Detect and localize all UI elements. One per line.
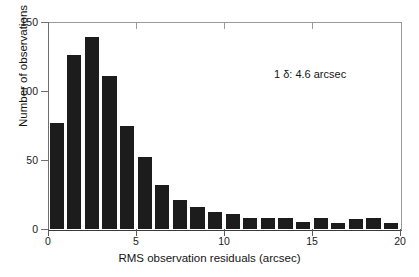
sigma-annotation: 1 δ: 4.6 arcsec	[274, 68, 346, 80]
histogram-bars	[48, 22, 400, 229]
histogram-bar	[278, 218, 292, 229]
histogram-bar	[366, 218, 380, 229]
bar-slot	[118, 22, 136, 229]
bar-slot	[189, 22, 207, 229]
histogram-bar	[102, 76, 116, 229]
histogram-bar	[138, 157, 152, 229]
bar-slot	[312, 22, 330, 229]
bar-slot	[48, 22, 66, 229]
x-tick-label-5: 5	[124, 236, 148, 247]
bar-slot	[330, 22, 348, 229]
bar-slot	[101, 22, 119, 229]
bar-slot	[136, 22, 154, 229]
bar-slot	[66, 22, 84, 229]
histogram-bar	[155, 185, 169, 229]
histogram-bar	[50, 123, 64, 229]
histogram-bar	[314, 218, 328, 229]
histogram-bar	[384, 223, 398, 229]
bar-slot	[154, 22, 172, 229]
x-tick-label-20: 20	[388, 236, 412, 247]
y-axis-title: Number of observations	[17, 0, 29, 151]
bar-slot	[171, 22, 189, 229]
y-axis-title-wrapper: Number of observations	[0, 0, 1, 1]
y-tick-label-0: 0	[12, 224, 38, 235]
histogram-bar	[261, 218, 275, 229]
x-tick-label-10: 10	[212, 236, 236, 247]
y-tick-label-50: 50	[12, 155, 38, 166]
bar-slot	[365, 22, 383, 229]
bar-slot	[347, 22, 365, 229]
histogram-bar	[85, 37, 99, 229]
bar-slot	[224, 22, 242, 229]
histogram-bar	[243, 218, 257, 229]
histogram-bar	[331, 223, 345, 229]
histogram-bar	[67, 55, 81, 229]
bar-slot	[242, 22, 260, 229]
histogram-bar	[349, 219, 363, 229]
histogram-bar	[296, 222, 310, 229]
bar-slot	[83, 22, 101, 229]
figure-canvas: 150 100 50 0 0 5 10 15 20 1 δ: 4.6 arcse…	[0, 0, 419, 277]
histogram-bar	[226, 214, 240, 229]
bar-slot	[206, 22, 224, 229]
bar-slot	[277, 22, 295, 229]
bar-slot	[382, 22, 400, 229]
x-axis-title: RMS observation residuals (arcsec)	[0, 252, 419, 264]
histogram-bar	[173, 200, 187, 229]
histogram-bar	[120, 126, 134, 230]
histogram-bar	[208, 212, 222, 229]
bar-slot	[259, 22, 277, 229]
histogram-bar	[190, 207, 204, 229]
x-tick-label-0: 0	[36, 236, 60, 247]
bar-slot	[294, 22, 312, 229]
x-tick-label-15: 15	[300, 236, 324, 247]
